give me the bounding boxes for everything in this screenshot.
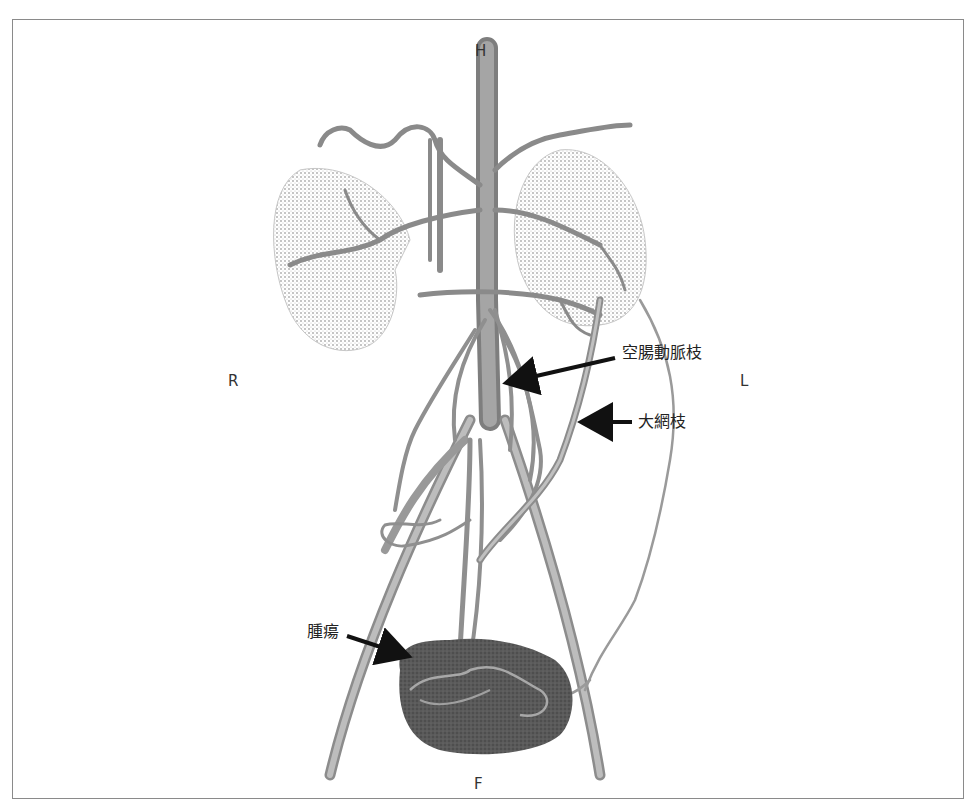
orientation-left-label: L: [740, 374, 748, 389]
orientation-head-label: H: [475, 44, 486, 59]
jejunal-branch-label: 空腸動脈枝: [622, 345, 702, 361]
omental-branch-label: 大網枝: [638, 414, 686, 430]
orientation-foot-label: F: [474, 777, 483, 792]
right-kidney: [274, 168, 410, 350]
jejunal-arrow-icon: [510, 358, 615, 382]
tumor-label: 腫瘍: [307, 624, 339, 640]
aorta: [487, 48, 490, 420]
tumor-mass: [399, 639, 572, 755]
angiography-illustration: [0, 0, 973, 812]
orientation-right-label: R: [228, 374, 238, 389]
mesenteric-vessels: [382, 310, 541, 660]
